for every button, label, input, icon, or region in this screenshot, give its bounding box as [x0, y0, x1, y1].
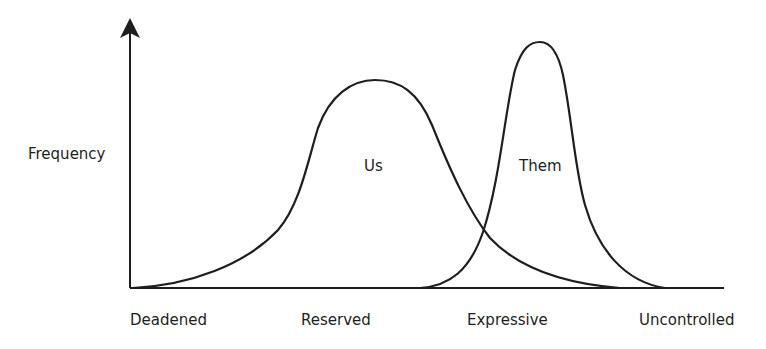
y-axis-label: Frequency [28, 145, 106, 163]
curve-label-us: Us [364, 157, 383, 175]
x-label-expressive: Expressive [467, 311, 548, 329]
curve-us [133, 80, 620, 288]
distribution-diagram: Frequency Us Them Deadened Reserved Expr… [0, 0, 766, 349]
x-label-reserved: Reserved [301, 311, 371, 329]
x-label-deadened: Deadened [130, 311, 207, 329]
x-label-uncontrolled: Uncontrolled [639, 311, 734, 329]
curve-label-them: Them [518, 157, 562, 175]
